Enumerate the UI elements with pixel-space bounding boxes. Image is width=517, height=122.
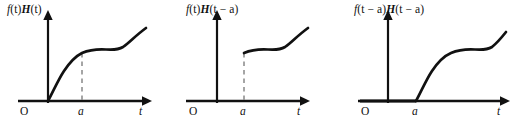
tick-label-a-0: a [78,105,84,117]
origin-label-2: O [361,105,369,117]
y-axis-0 [43,10,52,103]
x-axis-1 [186,96,310,106]
panel-f-t-H-t: f(t)H(t) O a t [0,0,172,122]
origin-label-0: O [20,105,28,117]
y-axis-2 [383,10,392,103]
x-axis-label-0: t [139,105,142,117]
x-axis-label-2: t [497,105,500,117]
origin-label-1: O [189,105,197,117]
panel-f-t-H-t-minus-a: f(t)H(t − a) O a t [172,0,344,122]
curve-0 [48,28,146,101]
tick-label-a-2: a [412,105,418,117]
panel-f-t-minus-a-H-t-minus-a: f(t − a)H(t − a) O a t [344,0,517,122]
curve-1 [244,28,308,53]
panel-0-plot [0,0,172,122]
y-axis-1 [212,10,221,103]
panel-1-plot [172,0,344,122]
panel-2-plot [344,0,517,122]
heaviside-figure: f(t)H(t) O a t f(t)H(t − a) [0,0,517,122]
tick-label-a-1: a [240,105,246,117]
x-axis-0 [18,96,152,106]
curve-2 [416,32,506,101]
x-axis-label-1: t [297,105,300,117]
